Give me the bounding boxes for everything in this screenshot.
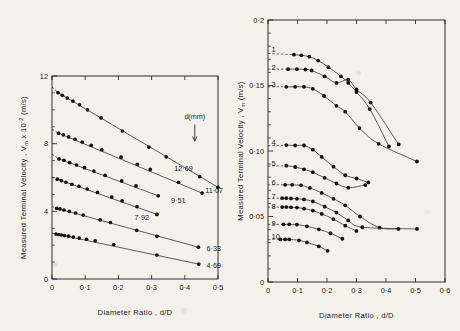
data-point: [283, 238, 287, 242]
right-xtick-label: 0·1: [292, 286, 303, 295]
data-point: [56, 91, 60, 95]
data-point: [147, 145, 151, 149]
data-point: [155, 235, 159, 239]
data-point: [346, 81, 350, 85]
data-point: [316, 59, 320, 63]
data-point: [323, 205, 327, 209]
right-series-label: 4: [272, 138, 276, 147]
right-ytick-label: 0·10: [249, 147, 264, 156]
left-xtick-label: 0·3: [146, 283, 157, 292]
data-point: [70, 182, 74, 186]
data-point: [74, 211, 78, 215]
data-point: [320, 191, 324, 195]
data-point: [280, 196, 284, 200]
data-point: [200, 191, 204, 195]
left-trend-line: [59, 159, 158, 196]
left-xtick-label: 0·5: [213, 283, 224, 292]
data-point: [343, 110, 347, 114]
data-point: [335, 81, 339, 85]
data-point: [295, 197, 299, 201]
figure-page: 00·10·20·30·40·50481212·6911·079·517·926…: [0, 0, 460, 331]
data-point: [119, 155, 123, 159]
data-point: [55, 177, 59, 181]
data-point: [71, 99, 75, 103]
left-trend-line: [57, 208, 199, 247]
data-point: [297, 238, 301, 242]
left-series-label: 9·51: [171, 196, 185, 205]
data-point: [308, 186, 312, 190]
data-point: [397, 143, 401, 147]
left-series-label: 11·07: [205, 186, 223, 195]
right-ytick-label: 0·2: [253, 16, 264, 25]
data-point: [311, 170, 315, 174]
data-point: [293, 165, 297, 169]
left-trend-line: [56, 234, 199, 264]
right-xtick-label: 0·6: [440, 286, 451, 295]
right-trend-curve: [294, 55, 389, 147]
left-ytick-label: 8: [44, 139, 48, 148]
data-point: [332, 197, 336, 201]
data-point: [355, 88, 359, 92]
data-point: [112, 243, 116, 247]
data-point: [311, 148, 315, 152]
data-point: [67, 234, 71, 238]
data-point: [62, 208, 66, 212]
data-point: [310, 69, 314, 73]
data-point: [80, 140, 84, 144]
data-point: [280, 205, 284, 209]
right-series-label: 7: [272, 192, 276, 201]
right-xtick-label: 0: [266, 286, 270, 295]
left-xtick-label: 0·4: [179, 283, 190, 292]
data-point: [346, 186, 350, 190]
data-point: [85, 237, 89, 241]
data-point: [100, 148, 104, 152]
left-ytick-label: 12: [40, 72, 48, 81]
data-point: [58, 207, 62, 211]
data-point: [377, 142, 381, 146]
data-point: [135, 162, 139, 166]
data-point: [302, 198, 306, 202]
data-point: [65, 96, 69, 100]
data-point: [361, 225, 365, 229]
left-xtick-label: 0·2: [113, 283, 124, 292]
data-point: [155, 253, 159, 257]
right-series-label: 10: [272, 232, 280, 241]
data-point: [284, 205, 288, 209]
data-point: [299, 53, 303, 57]
data-point: [355, 229, 359, 233]
data-point: [64, 180, 68, 184]
right-series-10: 10: [268, 232, 329, 252]
data-point: [335, 182, 339, 186]
data-point: [305, 241, 309, 245]
data-point: [55, 206, 59, 210]
left-series-label: 7·92: [135, 213, 149, 222]
data-point: [329, 231, 333, 235]
left-plot-frame: [52, 76, 218, 279]
left-series-9·51: 9·51: [52, 154, 185, 205]
right-plot-frame: [268, 20, 445, 282]
data-point: [71, 235, 75, 239]
left-xtick-label: 0: [50, 283, 54, 292]
data-point: [59, 233, 63, 237]
data-point: [368, 107, 372, 111]
data-point: [307, 55, 311, 59]
data-point: [290, 183, 294, 187]
right-series-label: 9: [272, 219, 276, 228]
data-point: [293, 85, 297, 89]
data-point: [93, 239, 97, 243]
data-point: [358, 215, 362, 219]
data-point: [322, 94, 326, 98]
left-series-label: 12·69: [174, 164, 192, 173]
data-point: [363, 183, 367, 187]
data-point: [286, 67, 290, 71]
data-point: [81, 213, 85, 217]
data-point: [302, 85, 306, 89]
data-point: [387, 145, 391, 149]
right-xtick-label: 0·2: [322, 286, 333, 295]
data-point: [120, 199, 124, 203]
data-point: [120, 179, 124, 183]
data-point: [57, 157, 61, 161]
data-point: [287, 238, 291, 242]
data-point: [302, 167, 306, 171]
data-point: [295, 206, 299, 210]
